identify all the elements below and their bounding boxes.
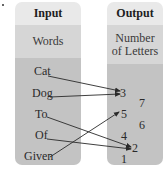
input-subheader: Words [15, 25, 81, 58]
input-item-cat: Cat [34, 64, 51, 79]
output-item-6: 6 [139, 118, 145, 133]
output-item-7: 7 [139, 96, 145, 111]
output-subheader-line1: Number [112, 32, 158, 45]
output-item-5: 5 [121, 107, 127, 122]
output-header: Output [107, 2, 163, 25]
output-item-4: 4 [121, 129, 127, 144]
input-item-to: To [35, 107, 48, 122]
bullet-dot [2, 4, 4, 6]
input-header: Input [15, 2, 81, 25]
output-subheader: Number of Letters [107, 25, 163, 64]
output-box: Output Number of Letters 3 7 5 6 4 2 1 [107, 2, 163, 165]
input-box: Input Words Cat Dog To Of Given [15, 2, 81, 165]
output-item-3: 3 [120, 86, 126, 101]
input-item-dog: Dog [32, 86, 53, 101]
output-subheader-line2: of Letters [112, 45, 158, 58]
input-item-of: Of [35, 128, 48, 143]
output-item-2: 2 [132, 141, 138, 156]
input-item-given: Given [24, 149, 53, 164]
output-item-1: 1 [121, 152, 127, 165]
